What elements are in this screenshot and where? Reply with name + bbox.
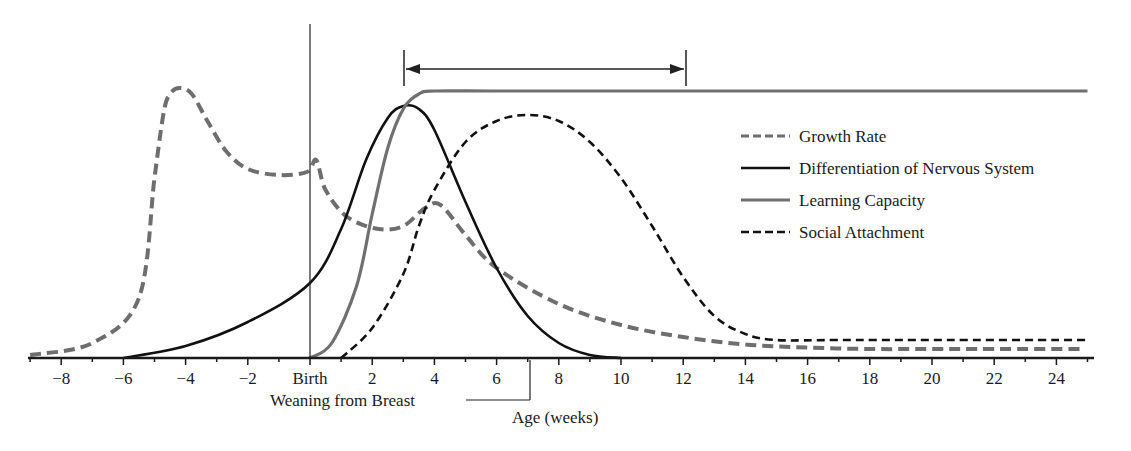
x-tick-label: 14 [737,369,755,388]
x-axis-title: Age (weeks) [512,408,598,427]
x-tick-label: −8 [52,369,70,388]
x-tick-label: 22 [986,369,1003,388]
x-tick-label: 16 [799,369,816,388]
x-tick-label: Birth [293,369,328,388]
x-tick-label: 24 [1048,369,1066,388]
x-tick-label: −2 [239,369,257,388]
x-tick-label: 2 [368,369,377,388]
x-tick-label: 12 [675,369,692,388]
x-tick-label: 18 [861,369,878,388]
differentiation-of-nervous-systemcurve [123,105,621,358]
x-tick-label: −6 [114,369,132,388]
legend-label: Differentiation of Nervous System [799,159,1034,178]
legend: Growth RateDifferentiation of Nervous Sy… [741,127,1034,242]
social-attachmentcurve [341,115,1087,358]
x-axis: −8−6−4−2Birth24681012141618202224 [28,358,1094,388]
legend-label: Social Attachment [799,223,924,242]
critical-period-arrow [404,50,686,86]
x-tick-label: 8 [555,369,564,388]
x-tick-label: 10 [613,369,630,388]
learning-capacitycurve [310,91,1088,358]
growth-ratecurve [30,88,1081,355]
development-chart: −8−6−4−2Birth24681012141618202224 Weanin… [0,0,1131,451]
x-tick-label: −4 [177,369,196,388]
x-tick-label: 6 [492,369,501,388]
legend-label: Growth Rate [799,127,886,146]
chart-curves [30,88,1087,358]
x-tick-label: 4 [430,369,439,388]
weaning-label: Weaning from Breast [270,391,415,410]
x-tick-label: 20 [924,369,941,388]
legend-label: Learning Capacity [799,191,926,210]
